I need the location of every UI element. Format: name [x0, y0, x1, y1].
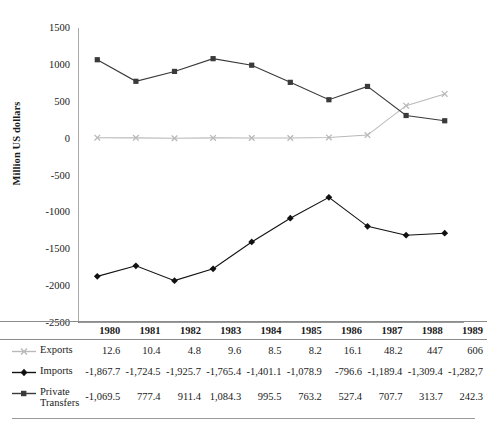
table-cell: 48.2 [366, 340, 406, 362]
square-marker-icon [21, 390, 26, 395]
table-cell: 606 [447, 340, 487, 362]
line-chart [78, 28, 464, 323]
table-row-label: Imports [40, 365, 73, 376]
square-marker-icon [172, 69, 177, 74]
table-cell: -1,867.7 [84, 361, 124, 382]
series-line [97, 197, 444, 280]
series-line [97, 94, 444, 138]
table-row-legend: Exports [0, 340, 84, 362]
table-row-legend: Imports [0, 361, 84, 382]
square-marker-icon [404, 113, 409, 118]
square-marker-icon [12, 389, 36, 398]
square-marker-icon [365, 84, 370, 89]
square-marker-icon [249, 63, 254, 68]
diamond-marker-icon [287, 215, 294, 222]
diamond-marker-icon [12, 368, 36, 377]
table-cell: 1,084.3 [205, 382, 245, 411]
square-marker-icon [211, 56, 216, 61]
diamond-marker-icon [21, 368, 28, 375]
diamond-marker-icon [94, 273, 101, 280]
diamond-marker-icon [133, 262, 140, 269]
x-marker-icon [12, 347, 36, 358]
table-cell: 8.5 [245, 340, 285, 362]
table-year-header: 1985 [285, 322, 325, 340]
table-cell: 242.3 [447, 382, 487, 411]
table-body: Exports12.610.44.89.68.58.216.148.244760… [0, 340, 487, 412]
table-cell: 10.4 [124, 340, 164, 362]
table-cell: -1,189.4 [366, 361, 406, 382]
table-cell: -1,925.7 [165, 361, 205, 382]
square-marker-icon [442, 118, 447, 123]
table-corner-cell [0, 322, 84, 340]
diamond-marker-icon [210, 265, 217, 272]
table-year-header: 1982 [165, 322, 205, 340]
table-cell: 447 [406, 340, 446, 362]
table-cell: -1,724.5 [124, 361, 164, 382]
data-table-section: 1980198119821983198419851986198719881989… [0, 321, 487, 431]
table-cell: -1,401.1 [245, 361, 285, 382]
x-marker-icon [12, 347, 36, 356]
square-marker-icon [95, 57, 100, 62]
table-cell: 911.4 [165, 382, 205, 411]
table-bottom-rule [12, 418, 475, 419]
table-cell: -1,069.5 [84, 382, 124, 411]
table-header-row: 1980198119821983198419851986198719881989 [0, 322, 487, 340]
y-tick-label: 500 [26, 97, 70, 107]
table-cell: 9.6 [205, 340, 245, 362]
series-private-transfers [95, 56, 448, 123]
y-tick-label: -1500 [26, 244, 70, 254]
table-cell: -796.6 [326, 361, 366, 382]
y-tick-label: -500 [26, 171, 70, 181]
y-tick-label: 0 [26, 134, 70, 144]
table-year-header: 1988 [406, 322, 446, 340]
table-cell: -1,078.9 [285, 361, 325, 382]
table-year-header: 1987 [366, 322, 406, 340]
chart-svg [78, 28, 464, 323]
diamond-marker-icon [171, 277, 178, 284]
table-year-header: 1986 [326, 322, 366, 340]
series-line [97, 59, 444, 121]
table-row: Exports12.610.44.89.68.58.216.148.244760… [0, 340, 487, 362]
table-year-header: 1983 [205, 322, 245, 340]
y-tick-label: 1500 [26, 23, 70, 33]
square-marker-icon [133, 79, 138, 84]
diamond-marker-icon [441, 230, 448, 237]
table-cell: -1,282,7 [447, 361, 487, 382]
table-cell: 313.7 [406, 382, 446, 411]
table-cell: 777.4 [124, 382, 164, 411]
figure-container: Million US dollars 150010005000-500-1000… [0, 0, 487, 431]
table-year-header: 1981 [124, 322, 164, 340]
chart-plot-area: Million US dollars 150010005000-500-1000… [0, 0, 487, 325]
square-marker-icon [288, 80, 293, 85]
table-cell: 4.8 [165, 340, 205, 362]
table-year-header: 1989 [447, 322, 487, 340]
square-marker-icon [12, 389, 36, 400]
table-cell: 527.4 [326, 382, 366, 411]
y-tick-label: -1000 [26, 207, 70, 217]
y-axis-tick-labels: 150010005000-500-1000-1500-2000-2500 [26, 0, 70, 325]
table-row-legend: Private Transfers [0, 382, 84, 411]
x-marker-icon [442, 91, 448, 97]
y-axis-title: Million US dollars [11, 89, 22, 199]
table-year-header: 1984 [245, 322, 285, 340]
diamond-marker-icon [12, 368, 36, 379]
series-exports [95, 91, 448, 141]
table-cell: 995.5 [245, 382, 285, 411]
table-cell: -1,765.4 [205, 361, 245, 382]
y-tick-label: 1000 [26, 60, 70, 70]
table-head: 1980198119821983198419851986198719881989 [0, 322, 487, 340]
y-tick-label: -2000 [26, 281, 70, 291]
table-row-label: Private Transfers [40, 386, 84, 408]
table-cell: 16.1 [326, 340, 366, 362]
diamond-marker-icon [248, 239, 255, 246]
table-year-header: 1980 [84, 322, 124, 340]
table-cell: 707.7 [366, 382, 406, 411]
table-row-label: Exports [40, 344, 73, 355]
x-marker-icon [403, 103, 409, 109]
square-marker-icon [326, 97, 331, 102]
series-imports [94, 194, 448, 284]
table-cell: 8.2 [285, 340, 325, 362]
table-row: Imports-1,867.7-1,724.5-1,925.7-1,765.4-… [0, 361, 487, 382]
data-table: 1980198119821983198419851986198719881989… [0, 321, 487, 411]
table-cell: 763.2 [285, 382, 325, 411]
